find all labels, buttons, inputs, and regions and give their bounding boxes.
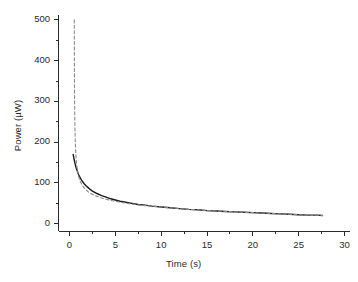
x-tick-label: 20 [240, 239, 266, 250]
x-axis-label: Time (s) [166, 258, 201, 269]
y-tick-label: 100 [16, 176, 50, 187]
y-tick-label: 300 [16, 94, 50, 105]
x-tick-label: 25 [286, 239, 312, 250]
x-tick-label: 5 [102, 239, 128, 250]
x-tick-label: 10 [148, 239, 174, 250]
x-tick-label: 30 [332, 239, 358, 250]
chart-figure: Power (µW) Time (s) 01002003004005000510… [0, 0, 358, 282]
y-tick-label: 200 [16, 135, 50, 146]
x-tick-label: 0 [57, 239, 83, 250]
x-tick-label: 15 [194, 239, 220, 250]
y-tick-label: 500 [16, 13, 50, 24]
y-tick-label: 0 [16, 217, 50, 228]
y-tick-label: 400 [16, 54, 50, 65]
